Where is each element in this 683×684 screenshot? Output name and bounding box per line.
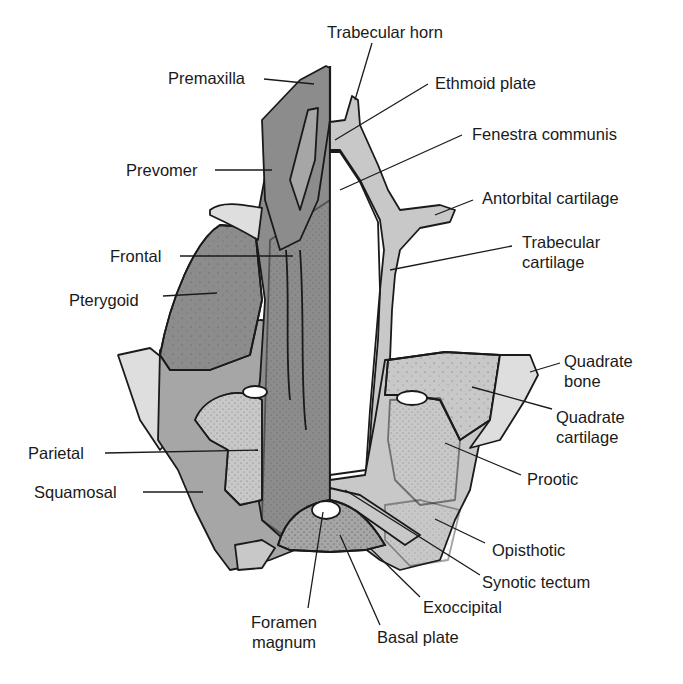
label-foramen-magnum-line2: magnum [234,632,334,652]
label-trabecular-horn: Trabecular horn [327,22,443,42]
label-pterygoid: Pterygoid [69,290,139,310]
label-foramen-magnum: Foramen magnum [234,612,334,652]
label-synotic-tectum: Synotic tectum [482,572,590,592]
foramen-magnum-opening [312,501,340,519]
label-foramen-magnum-line1: Foramen [234,612,334,632]
label-frontal: Frontal [110,246,161,266]
label-prevomer: Prevomer [126,160,198,180]
label-quadrate-cartilage: Quadrate cartilage [556,407,625,447]
label-quadrate-cartilage-line2: cartilage [556,427,625,447]
label-prootic: Prootic [527,469,578,489]
label-trabecular-cartilage-line1: Trabecular [522,232,600,252]
label-parietal: Parietal [28,443,84,463]
label-antorbital-cartilage: Antorbital cartilage [482,188,619,208]
label-quadrate-bone: Quadrate bone [564,351,633,391]
label-quadrate-cartilage-line1: Quadrate [556,407,625,427]
label-basal-plate: Basal plate [377,627,459,647]
label-ethmoid-plate: Ethmoid plate [435,73,536,93]
label-fenestra-communis: Fenestra communis [472,124,617,144]
label-trabecular-cartilage: Trabecular cartilage [522,232,600,272]
label-quadrate-bone-line1: Quadrate [564,351,633,371]
skull-diagram: Premaxilla Prevomer Frontal Pterygoid Pa… [0,0,683,684]
label-premaxilla: Premaxilla [168,68,245,88]
label-quadrate-bone-line2: bone [564,371,633,391]
label-trabecular-cartilage-line2: cartilage [522,252,600,272]
label-exoccipital: Exoccipital [423,597,502,617]
chondrocranium-right [330,96,538,570]
dermal-skull-left [118,66,330,570]
label-opisthotic: Opisthotic [492,540,565,560]
label-squamosal: Squamosal [34,482,117,502]
